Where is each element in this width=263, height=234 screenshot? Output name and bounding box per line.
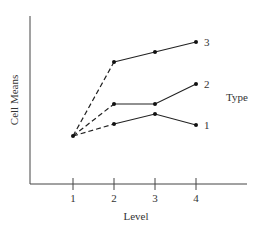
data-points [71, 40, 198, 138]
legend-title: Type [226, 91, 248, 103]
chart: 1 2 3 4 Level Cell Means Type 3 2 1 [0, 0, 263, 234]
dashed-segments [73, 62, 114, 136]
x-tick-label: 3 [152, 192, 158, 204]
series-label-2: 2 [204, 78, 210, 90]
series-label-1: 1 [204, 119, 210, 131]
x-tick-label: 4 [193, 192, 199, 204]
y-axis-title: Cell Means [8, 75, 20, 125]
series-label-3: 3 [204, 36, 210, 48]
x-tick-label: 2 [111, 192, 117, 204]
x-tick-label: 1 [70, 192, 76, 204]
series-2-line [114, 84, 196, 104]
x-axis-title: Level [123, 210, 148, 222]
